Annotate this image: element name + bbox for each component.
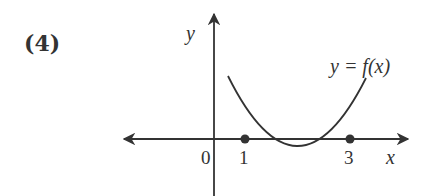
graph: y x 0 1 3 y = f(x) (0, 0, 432, 196)
curve-f (228, 76, 366, 146)
x-axis-label: x (385, 146, 395, 168)
tick-label-1: 1 (239, 147, 249, 168)
root-point-1 (241, 135, 250, 144)
root-point-3 (346, 135, 355, 144)
y-axis-label: y (184, 22, 195, 45)
origin-label: 0 (201, 147, 211, 168)
tick-label-3: 3 (344, 147, 354, 168)
curve-label: y = f(x) (328, 55, 390, 78)
